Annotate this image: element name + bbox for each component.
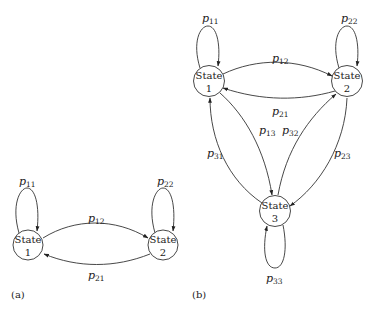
label-a-p11: p11 [19, 175, 36, 189]
state-number: 1 [25, 247, 31, 258]
label-a-p21: p21 [88, 269, 105, 283]
state-number: 3 [272, 213, 278, 224]
panel-label-b: (b) [192, 289, 206, 300]
state-number: 2 [160, 247, 166, 258]
state-label: State [262, 200, 289, 211]
label-b-p31: p31 [207, 147, 224, 161]
label-b-p21: p21 [272, 105, 289, 119]
state-node-b-3: State 3 [260, 196, 291, 227]
markov-chain-diagram: State 1 State 2 p11 p22 p12 p21 (a) [0, 0, 377, 312]
state-number: 1 [206, 83, 212, 94]
panel-b: State 1 State 2 State 3 p11 p22 p33 p12 … [192, 12, 363, 300]
edge-b-p11-self-loop [197, 26, 219, 68]
state-label: State [15, 234, 42, 245]
label-b-p11: p11 [202, 12, 219, 26]
edge-a-p22-self-loop [152, 188, 174, 233]
edge-b-p22-self-loop [336, 26, 358, 68]
state-number: 2 [344, 83, 350, 94]
label-b-p33: p33 [266, 272, 283, 286]
state-label: State [150, 234, 177, 245]
state-node-b-1: State 1 [194, 66, 225, 97]
edge-b-p31 [210, 98, 262, 203]
label-b-p32: p32 [282, 124, 299, 138]
state-node-a-1: State 1 [13, 230, 43, 260]
state-label: State [196, 70, 223, 81]
label-b-p12: p12 [272, 52, 289, 66]
state-node-a-2: State 2 [148, 230, 178, 260]
edge-a-p11-self-loop [16, 188, 38, 233]
label-b-p23: p23 [334, 147, 351, 161]
panel-label-a: (a) [11, 289, 25, 300]
edge-b-p21 [223, 88, 335, 98]
label-a-p22: p22 [157, 175, 174, 189]
label-a-p12: p12 [88, 212, 105, 226]
label-b-p22: p22 [341, 12, 358, 26]
state-node-b-2: State 2 [332, 66, 363, 97]
edge-a-p21 [44, 254, 150, 265]
edge-b-p13 [220, 93, 272, 195]
state-label: State [334, 70, 361, 81]
panel-a: State 1 State 2 p11 p22 p12 p21 (a) [11, 175, 178, 300]
edge-b-p33-self-loop [265, 225, 286, 268]
label-b-p13: p13 [259, 124, 276, 138]
